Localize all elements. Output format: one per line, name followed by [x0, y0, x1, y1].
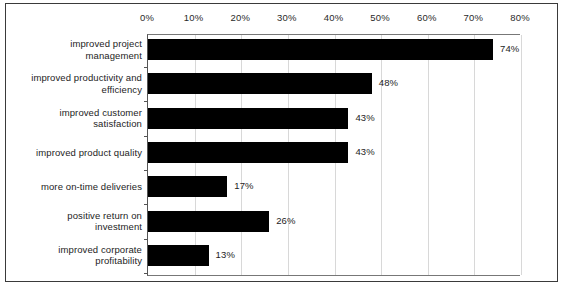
chart-frame: 0%10%20%30%40%50%60%70%80% improved proj…: [5, 3, 558, 282]
y-axis-category-label: positive return oninvestment: [16, 210, 142, 233]
x-axis-tick-label: 30%: [277, 12, 297, 23]
y-axis-category-label-line: improved customer: [16, 107, 142, 119]
bar-value-label: 74%: [500, 43, 519, 54]
bar-value-label: 17%: [234, 180, 253, 191]
y-axis-category-label-line: improved product quality: [16, 147, 142, 159]
bar-value-label: 48%: [379, 77, 398, 88]
x-axis-tick-label: 70%: [464, 12, 484, 23]
bar-row[interactable]: 43%: [148, 142, 564, 163]
bar-value-label: 43%: [355, 112, 374, 123]
x-axis-tick-label-row: 0%10%20%30%40%50%60%70%80%: [6, 12, 559, 30]
y-axis-category-label-line: profitability: [16, 255, 142, 267]
y-axis-category-label-line: investment: [16, 221, 142, 233]
bar-row[interactable]: 17%: [148, 176, 564, 197]
x-axis-tick-label: 40%: [324, 12, 344, 23]
y-axis-category-label: improved product quality: [16, 147, 142, 159]
y-axis-category-label-column: improved projectmanagementimproved produ…: [16, 34, 142, 276]
bar[interactable]: [148, 142, 348, 163]
x-axis-tick-label: 50%: [370, 12, 390, 23]
bar[interactable]: [148, 211, 269, 232]
bar[interactable]: [148, 176, 227, 197]
y-axis-category-label-line: efficiency: [16, 84, 142, 96]
bar-row[interactable]: 74%: [148, 39, 564, 60]
bar-row[interactable]: 13%: [148, 245, 564, 266]
x-axis-tick-label: 80%: [510, 12, 530, 23]
y-axis-category-label: improved projectmanagement: [16, 38, 142, 61]
y-axis-category-label-line: improved productivity and: [16, 72, 142, 84]
x-axis-tick-label: 20%: [230, 12, 250, 23]
x-axis-tick-label: 60%: [417, 12, 437, 23]
bar[interactable]: [148, 73, 372, 94]
y-axis-category-label: improved customersatisfaction: [16, 107, 142, 130]
bar-row[interactable]: 43%: [148, 108, 564, 129]
y-axis-category-label-line: management: [16, 50, 142, 62]
x-axis-tick-label: 10%: [184, 12, 204, 23]
bar-row[interactable]: 48%: [148, 73, 564, 94]
bar-value-label: 43%: [355, 146, 374, 157]
y-axis-category-label: improved corporateprofitability: [16, 244, 142, 267]
x-axis-tick-label: 0%: [140, 12, 154, 23]
y-axis-category-label: more on-time deliveries: [16, 181, 142, 193]
y-axis-category-label-line: satisfaction: [16, 118, 142, 130]
bar[interactable]: [148, 108, 348, 129]
y-axis-category-label: improved productivity andefficiency: [16, 72, 142, 95]
bar-value-label: 13%: [216, 249, 235, 260]
y-axis-category-label-line: more on-time deliveries: [16, 181, 142, 193]
bar[interactable]: [148, 39, 493, 60]
bar-series: 74%48%43%43%17%26%13%: [148, 34, 564, 276]
bar[interactable]: [148, 245, 209, 266]
y-axis-category-label-line: positive return on: [16, 210, 142, 222]
y-axis-category-label-line: improved project: [16, 38, 142, 50]
bar-row[interactable]: 26%: [148, 211, 564, 232]
y-axis-category-label-line: improved corporate: [16, 244, 142, 256]
bar-value-label: 26%: [276, 215, 295, 226]
